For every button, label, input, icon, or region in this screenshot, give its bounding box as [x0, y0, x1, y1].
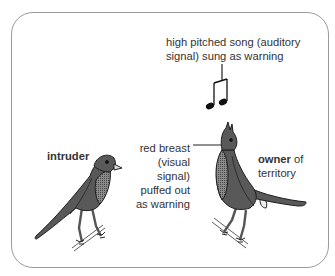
diagram-graphics: [0, 0, 335, 276]
intruder-bird-icon: [35, 155, 122, 251]
owner-bird-icon: [212, 122, 306, 248]
music-note-icon: [205, 79, 228, 111]
